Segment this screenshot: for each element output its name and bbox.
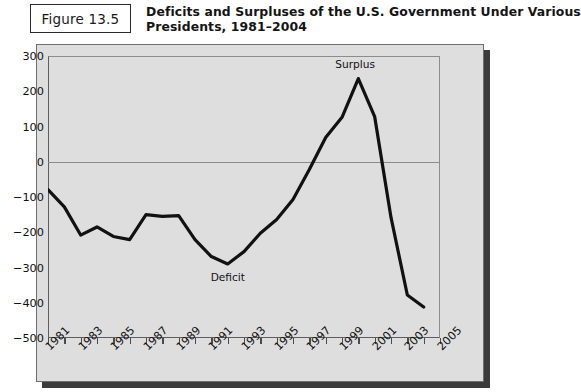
figure-title-line-2: Presidents, 1981–2004 — [146, 20, 581, 35]
y-axis-tick-label: −100 — [13, 191, 44, 204]
y-axis-tick-label: −500 — [13, 332, 44, 345]
annotation-surplus: Surplus — [335, 58, 375, 70]
figure-header: Figure 13.5 Deficits and Surpluses of th… — [30, 4, 485, 42]
y-axis-tick-label: 200 — [22, 85, 44, 98]
figure-number-box: Figure 13.5 — [30, 4, 131, 33]
y-axis-tick-label: 300 — [22, 50, 44, 63]
y-axis-labels: 3002001000−100−200−300−400−500 — [0, 56, 44, 338]
annotation-deficit: Deficit — [211, 271, 245, 283]
figure-title-line-1: Deficits and Surpluses of the U.S. Gover… — [146, 5, 581, 20]
plot-area: Surplus Deficit — [48, 56, 440, 338]
y-axis-tick-label: −200 — [13, 226, 44, 239]
x-axis-labels: 1981198319851987198919911993199519971999… — [48, 344, 440, 384]
data-line-series — [48, 56, 440, 338]
y-axis-tick-label: 0 — [37, 155, 44, 168]
figure-title: Deficits and Surpluses of the U.S. Gover… — [146, 4, 581, 34]
figure-number-label: Figure 13.5 — [42, 11, 120, 27]
y-axis-tick-label: −300 — [13, 261, 44, 274]
y-axis-tick-label: 100 — [22, 120, 44, 133]
y-axis-tick-label: −400 — [13, 296, 44, 309]
